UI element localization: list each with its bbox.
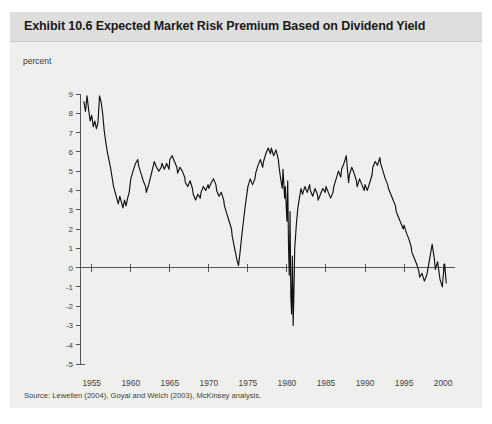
y-tick-label: 0 xyxy=(69,264,74,273)
x-tick-label: 1990 xyxy=(356,378,375,388)
x-tick-label: 1955 xyxy=(82,378,101,388)
source-note: Source: Lewellen (2004), Goyal and Welch… xyxy=(24,391,261,400)
page-title: Exhibit 10.6 Expected Market Risk Premiu… xyxy=(24,19,425,33)
y-tick-label: 3 xyxy=(69,206,74,215)
y-tick-label: 6 xyxy=(69,148,74,157)
x-tick-label: 1985 xyxy=(317,378,336,388)
data-series-group xyxy=(84,96,446,326)
y-tick-label: 7 xyxy=(69,129,74,138)
chart-plot-area: 9876543210-1-2-3-4-5 1955196019651970197… xyxy=(10,42,482,408)
x-tick-label: 1975 xyxy=(239,378,258,388)
x-tick-label: 1980 xyxy=(278,378,297,388)
y-tick-label: -3 xyxy=(66,321,74,330)
x-tick-label: 1970 xyxy=(200,378,219,388)
series-line xyxy=(84,96,446,326)
y-tick-label: 2 xyxy=(69,225,74,234)
exhibit-panel: Exhibit 10.6 Expected Market Risk Premiu… xyxy=(10,12,482,408)
x-axis: 1955196019651970197519801985199019952000 xyxy=(80,264,453,388)
risk-premium-line-chart: 9876543210-1-2-3-4-5 1955196019651970197… xyxy=(10,42,482,408)
exhibit-title-band: Exhibit 10.6 Expected Market Risk Premiu… xyxy=(10,12,482,42)
y-tick-label: -4 xyxy=(66,341,74,350)
x-tick-label: 1960 xyxy=(121,378,140,388)
y-tick-label: 4 xyxy=(69,186,74,195)
y-tick-label: 1 xyxy=(69,244,74,253)
y-tick-label: -1 xyxy=(66,283,74,292)
x-tick-label: 1965 xyxy=(160,378,179,388)
y-axis: 9876543210-1-2-3-4-5 xyxy=(66,90,80,369)
y-tick-label: 5 xyxy=(69,167,74,176)
x-tick-label: 2000 xyxy=(434,378,453,388)
y-tick-label: -2 xyxy=(66,302,74,311)
y-tick-label: 8 xyxy=(69,109,74,118)
y-tick-label: 9 xyxy=(69,90,74,99)
y-tick-label: -5 xyxy=(66,360,74,369)
x-tick-label: 1995 xyxy=(395,378,414,388)
